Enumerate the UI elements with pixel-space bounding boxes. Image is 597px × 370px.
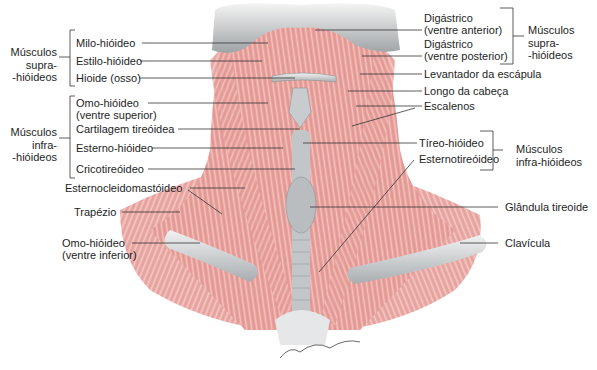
label-digastric-anterior: Digástrico	[424, 12, 473, 24]
group-line: supra-	[528, 37, 574, 50]
label-trapezius: Trapézio	[74, 206, 116, 218]
group-line: supra-	[5, 59, 57, 72]
thyroid-gland	[286, 177, 316, 233]
label-omohyoid-superior: Omo-hióideo	[76, 97, 139, 109]
group-line: infra-	[5, 139, 57, 152]
group-line: Músculos	[528, 24, 574, 37]
group-line: -hióideos	[5, 71, 57, 84]
group-line: Músculos	[5, 126, 57, 139]
group-label-supra-hyoid-right: Músculos supra- -hióideos	[528, 24, 574, 62]
anatomy-figure: Músculos supra- -hióideos Músculos infra…	[0, 0, 597, 370]
label-thyrohyoid: Tíreo-hióideo	[419, 137, 484, 149]
label-sternohyoid: Esterno-hióideo	[76, 142, 153, 154]
group-label-infra-hyoid-left: Músculos infra- -hióideos	[5, 126, 57, 164]
group-line: -hióideos	[528, 49, 574, 62]
label-clavicle: Clavícula	[505, 237, 550, 249]
label-thyroid-gland: Glândula tireoide	[505, 201, 588, 213]
label-omohyoid-inferior-sub: (ventre inferior)	[62, 249, 137, 261]
label-digastric-posterior-sub: (ventre posterior)	[424, 50, 508, 62]
label-sternocleidomastoid: Esternocleidomastóideo	[65, 182, 182, 194]
label-scalenes: Escalenos	[424, 100, 475, 112]
label-digastric-anterior-sub: (ventre anterior)	[424, 24, 502, 36]
label-levator-scapulae: Levantador da escápula	[424, 68, 541, 80]
group-label-infra-hyoid-right: Músculos infra-hióideos	[516, 143, 582, 168]
label-omohyoid-superior-sub: (ventre superior)	[76, 109, 157, 121]
label-sternothyroid: Esternotireóideo	[419, 153, 499, 165]
label-thyroid-cartilage: Cartilagem tireóidea	[76, 123, 174, 135]
label-digastric-posterior: Digástrico	[424, 38, 473, 50]
label-cricothyroid: Cricotireóideo	[76, 163, 144, 175]
group-line: Músculos	[5, 46, 57, 59]
label-omohyoid-inferior: Omo-hióideo	[62, 237, 125, 249]
label-longus-capitis: Longo da cabeça	[424, 85, 508, 97]
label-milo-hyoid: Milo-hióideo	[76, 37, 135, 49]
label-hyoid-bone: Hioide (osso)	[76, 72, 141, 84]
group-line: Músculos	[516, 143, 582, 156]
group-line: infra-hióideos	[516, 156, 582, 169]
group-line: -hióideos	[5, 151, 57, 164]
group-label-supra-hyoid-left: Músculos supra- -hióideos	[5, 46, 57, 84]
sternum	[275, 310, 330, 345]
label-stylo-hyoid: Estilo-hióideo	[76, 55, 142, 67]
